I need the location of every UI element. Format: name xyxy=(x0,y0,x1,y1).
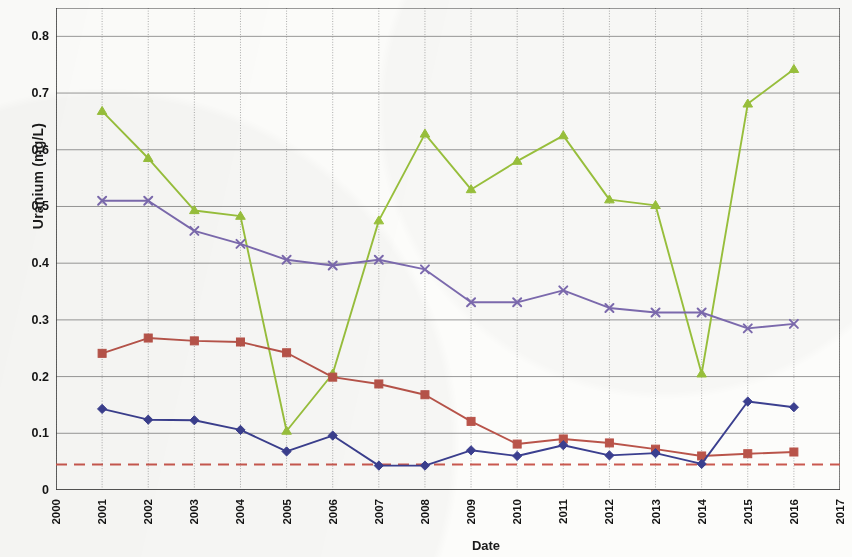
data-point-marker xyxy=(789,403,798,412)
x-axis-tick-label: 2011 xyxy=(557,499,569,524)
data-point-marker xyxy=(282,447,291,456)
y-axis-tick-label: 0.4 xyxy=(32,256,49,270)
x-axis-tick-label: 2016 xyxy=(788,499,800,525)
x-axis-tick-label: 2017 xyxy=(834,499,846,525)
y-axis-tick-label: 0.7 xyxy=(32,86,49,100)
data-point-marker xyxy=(697,369,707,377)
data-point-marker xyxy=(513,451,522,460)
series-line xyxy=(102,338,794,456)
data-point-marker xyxy=(466,446,475,455)
x-axis-tick-label: 2001 xyxy=(96,499,108,525)
x-axis-tick-label: 2000 xyxy=(50,499,62,525)
x-axis-tick-label: 2010 xyxy=(511,499,523,525)
y-axis-tick-label: 0.3 xyxy=(32,313,49,327)
series-line xyxy=(102,201,794,329)
data-point-marker xyxy=(144,415,153,424)
x-axis-tick-label: 2007 xyxy=(373,499,385,525)
data-point-marker xyxy=(605,451,614,460)
series-purple xyxy=(98,197,798,333)
data-point-marker xyxy=(98,404,107,413)
data-point-marker xyxy=(97,106,107,114)
x-axis-tick-label: 2008 xyxy=(419,499,431,525)
data-point-marker xyxy=(420,129,430,137)
data-point-marker xyxy=(190,416,199,425)
chart-svg xyxy=(56,8,840,490)
data-point-marker xyxy=(744,450,752,458)
data-point-marker xyxy=(236,338,244,346)
data-point-marker xyxy=(558,131,568,139)
data-point-marker xyxy=(98,349,106,357)
plot-canvas: 00.10.20.30.40.50.60.70.8200020012002200… xyxy=(56,8,840,490)
uranium-trend-chart: Uranium (mg/L) 00.10.20.30.40.50.60.70.8… xyxy=(0,0,852,557)
x-axis-tick-label: 2002 xyxy=(142,499,154,525)
x-axis-tick-label: 2004 xyxy=(234,499,246,525)
x-axis-tick-label: 2012 xyxy=(603,499,615,525)
data-point-marker xyxy=(374,216,384,224)
data-point-marker xyxy=(605,439,613,447)
series-green xyxy=(97,64,798,434)
data-point-marker xyxy=(467,417,475,425)
data-point-marker xyxy=(421,391,429,399)
x-axis-tick-label: 2009 xyxy=(465,499,477,525)
x-axis-tick-label: 2013 xyxy=(650,499,662,525)
plot-area: 00.10.20.30.40.50.60.70.8200020012002200… xyxy=(56,8,840,490)
y-axis-tick-label: 0.1 xyxy=(32,426,49,440)
data-point-marker xyxy=(144,334,152,342)
data-point-marker xyxy=(789,64,799,72)
y-axis-title: Uranium (mg/L) xyxy=(30,96,46,256)
y-axis-tick-label: 0 xyxy=(42,483,49,497)
data-point-marker xyxy=(329,373,337,381)
series-red xyxy=(98,334,798,460)
x-axis-tick-label: 2014 xyxy=(696,499,708,525)
data-point-marker xyxy=(513,440,521,448)
x-axis-tick-label: 2005 xyxy=(281,499,293,525)
data-point-marker xyxy=(190,337,198,345)
data-point-marker xyxy=(420,461,429,470)
x-axis-tick-label: 2003 xyxy=(188,499,200,525)
data-point-marker xyxy=(375,380,383,388)
y-axis-tick-label: 0.6 xyxy=(32,143,49,157)
x-axis-title: Date xyxy=(0,538,852,553)
data-point-marker xyxy=(283,349,291,357)
x-axis-tick-label: 2015 xyxy=(742,499,754,525)
data-point-marker xyxy=(790,448,798,456)
y-axis-tick-label: 0.5 xyxy=(32,199,49,213)
x-axis-tick-label: 2006 xyxy=(327,499,339,525)
y-axis-tick-label: 0.8 xyxy=(32,29,49,43)
y-axis-tick-label: 0.2 xyxy=(32,370,49,384)
